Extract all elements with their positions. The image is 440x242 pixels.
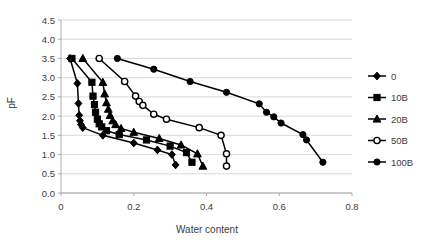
data-point — [140, 102, 146, 108]
data-point — [154, 146, 161, 154]
data-point — [151, 111, 157, 117]
data-point — [218, 132, 224, 138]
y-tick-labels: 0.00.51.01.52.02.53.03.54.04.5 — [42, 15, 55, 199]
data-point — [172, 161, 179, 169]
data-point — [74, 80, 81, 88]
data-point — [122, 78, 128, 84]
data-point — [183, 150, 189, 156]
legend-marker — [374, 72, 381, 80]
y-tick-label: 0.0 — [42, 188, 55, 199]
data-point — [69, 55, 75, 61]
data-point — [223, 89, 229, 95]
series-10B — [69, 55, 195, 165]
data-point — [130, 139, 137, 147]
data-point — [169, 151, 176, 159]
x-tick-label: 0 — [58, 201, 63, 212]
legend-group: 010B20B50B100B — [368, 71, 413, 168]
x-axis-title: Water content — [176, 224, 238, 235]
data-point — [103, 128, 109, 134]
legend-label: 0 — [391, 71, 396, 82]
data-point — [199, 162, 207, 169]
legend-label: 20B — [391, 114, 408, 125]
x-tick-label: 0.6 — [273, 201, 286, 212]
data-point — [101, 90, 109, 97]
data-point — [116, 131, 122, 137]
chart-svg: 0.00.51.01.52.02.53.03.54.04.5 00.20.40.… — [0, 0, 440, 242]
y-tick-label: 1.0 — [42, 149, 55, 160]
data-point — [263, 109, 269, 115]
legend-item-20B[interactable]: 20B — [368, 114, 408, 125]
data-point — [223, 151, 229, 157]
data-point — [90, 93, 96, 99]
x-tick-label: 0.4 — [200, 201, 213, 212]
y-tick-label: 3.0 — [42, 72, 55, 83]
legend-label: 50B — [391, 135, 408, 146]
data-point — [271, 114, 277, 120]
legend-marker — [374, 94, 380, 100]
data-point — [92, 109, 98, 115]
x-tick-label: 0.8 — [345, 201, 358, 212]
y-tick-label: 4.0 — [42, 34, 55, 45]
y-axis-title: pF — [6, 97, 17, 109]
y-tick-label: 4.5 — [42, 15, 55, 26]
x-tick-labels: 00.20.40.60.8 — [58, 201, 358, 212]
data-point — [223, 163, 229, 169]
data-point — [79, 54, 87, 61]
y-tick-label: 2.5 — [42, 91, 55, 102]
legend-item-10B[interactable]: 10B — [368, 92, 408, 103]
legend-marker — [374, 137, 380, 143]
data-point — [151, 66, 157, 72]
legend-label: 10B — [391, 92, 408, 103]
data-point — [96, 55, 102, 61]
y-tick-label: 2.0 — [42, 111, 55, 122]
series-line-50B — [99, 58, 226, 166]
data-point — [194, 150, 202, 157]
legend-item-0[interactable]: 0 — [368, 71, 396, 82]
chart-container: 0.00.51.01.52.02.53.03.54.04.5 00.20.40.… — [0, 0, 440, 242]
legend-marker — [374, 159, 380, 165]
y-tick-label: 0.5 — [42, 168, 55, 179]
y-tick-label: 3.5 — [42, 53, 55, 64]
data-point — [114, 55, 120, 61]
data-point — [89, 79, 95, 85]
series-line-10B — [72, 58, 192, 162]
legend-label: 100B — [391, 157, 413, 168]
legend-item-50B[interactable]: 50B — [368, 135, 408, 146]
data-point — [187, 78, 193, 84]
x-tick-label: 0.2 — [127, 201, 140, 212]
series-group — [67, 54, 326, 169]
data-point — [303, 137, 309, 143]
data-point — [75, 100, 82, 108]
data-point — [143, 137, 149, 143]
data-point — [103, 99, 111, 106]
data-point — [256, 101, 262, 107]
data-point — [320, 159, 326, 165]
y-tick-label: 1.5 — [42, 130, 55, 141]
data-point — [163, 116, 169, 122]
data-point — [278, 120, 284, 126]
data-point — [189, 159, 195, 165]
data-point — [167, 143, 173, 149]
data-point — [196, 125, 202, 131]
gridlines-group — [61, 20, 352, 193]
series-100B — [114, 55, 326, 165]
data-point — [91, 101, 97, 107]
legend-item-100B[interactable]: 100B — [368, 157, 413, 168]
